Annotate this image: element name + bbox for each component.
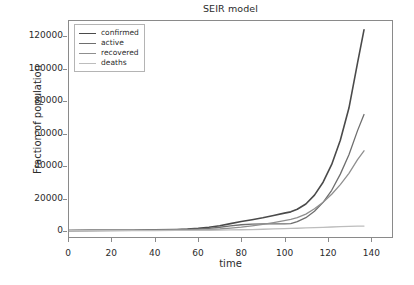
x-tick-label: 20: [87, 248, 135, 258]
chart-legend: confirmedactiverecovereddeaths: [74, 24, 145, 72]
legend-swatch-recovered: [79, 53, 96, 54]
legend-label: active: [101, 38, 124, 48]
legend-item-confirmed[interactable]: confirmed: [79, 28, 139, 38]
legend-label: recovered: [101, 48, 139, 58]
x-tick-mark: [371, 238, 372, 242]
x-tick-mark: [241, 238, 242, 242]
y-tick-mark: [63, 231, 67, 232]
y-tick-label: 0: [3, 225, 63, 235]
x-tick-mark: [328, 238, 329, 242]
legend-item-deaths[interactable]: deaths: [79, 58, 139, 68]
x-tick-mark: [68, 238, 69, 242]
x-tick-mark: [198, 238, 199, 242]
x-tick-mark: [285, 238, 286, 242]
legend-item-active[interactable]: active: [79, 38, 139, 48]
x-tick-mark: [111, 238, 112, 242]
x-tick-label: 80: [217, 248, 265, 258]
x-tick-label: 140: [347, 248, 395, 258]
legend-swatch-deaths: [79, 63, 96, 64]
legend-swatch-active: [79, 43, 96, 44]
legend-item-recovered[interactable]: recovered: [79, 48, 139, 58]
y-tick-mark: [63, 101, 67, 102]
y-tick-mark: [63, 199, 67, 200]
series-line-active: [69, 114, 364, 230]
legend-label: deaths: [101, 58, 127, 68]
x-tick-label: 60: [174, 248, 222, 258]
chart-title: SEIR model: [68, 3, 393, 14]
y-tick-mark: [63, 166, 67, 167]
legend-label: confirmed: [101, 28, 139, 38]
x-axis-label: time: [68, 258, 393, 269]
x-tick-label: 120: [304, 248, 352, 258]
y-axis-label: Fraction of population: [32, 20, 43, 220]
y-tick-mark: [63, 69, 67, 70]
legend-swatch-confirmed: [79, 33, 96, 34]
series-line-recovered: [69, 151, 364, 231]
chart-figure: SEIR model 02000040000600008000010000012…: [0, 0, 414, 285]
y-tick-mark: [63, 36, 67, 37]
x-tick-label: 0: [44, 248, 92, 258]
y-tick-mark: [63, 134, 67, 135]
x-tick-label: 40: [131, 248, 179, 258]
x-tick-mark: [155, 238, 156, 242]
x-tick-label: 100: [261, 248, 309, 258]
x-axis-ticks: 020406080100120140: [0, 243, 414, 259]
